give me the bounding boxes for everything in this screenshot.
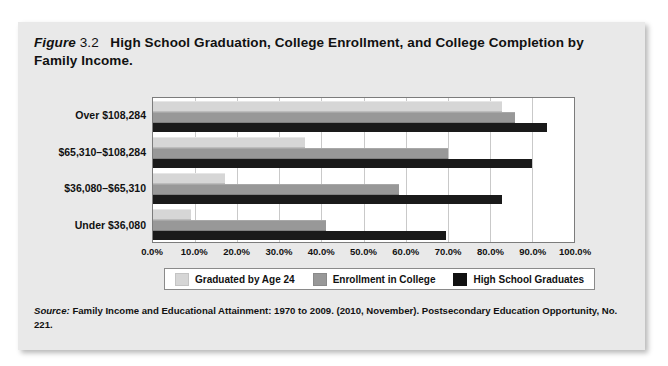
bar-group <box>153 98 574 134</box>
legend-swatch <box>175 273 189 286</box>
bar <box>153 209 191 220</box>
x-axis-tick-label: 40.0% <box>308 246 335 257</box>
plot-area <box>152 97 575 243</box>
bar <box>153 148 448 159</box>
legend-label: Graduated by Age 24 <box>195 274 295 285</box>
x-axis-tick-label: 100.0% <box>559 246 591 257</box>
x-axis-tick-label: 60.0% <box>392 246 419 257</box>
legend-label: High School Graduates <box>473 274 584 285</box>
legend-swatch <box>313 273 327 286</box>
chart-region: Over $108,284$65,310–$108,284$36,080–$65… <box>18 74 645 294</box>
x-axis-tick-label: 20.0% <box>223 246 250 257</box>
x-axis-tick-label: 50.0% <box>350 246 377 257</box>
figure-panel: Figure 3.2 High School Graduation, Colle… <box>18 22 645 350</box>
x-axis-tick-label: 0.0% <box>141 246 163 257</box>
bar-group <box>153 206 574 242</box>
y-axis-label: Over $108,284 <box>60 97 152 134</box>
legend-label: Enrollment in College <box>333 274 436 285</box>
bar-group <box>153 134 574 170</box>
figure-caption-text: High School Graduation, College Enrollme… <box>34 35 584 68</box>
x-axis-tick-label: 30.0% <box>265 246 292 257</box>
x-axis-tick-label: 70.0% <box>435 246 462 257</box>
source-note: Source: Family Income and Educational At… <box>34 304 629 332</box>
figure-label: Figure <box>34 35 76 50</box>
chart-legend: Graduated by Age 24Enrollment in College… <box>164 268 595 290</box>
figure-caption: Figure 3.2 High School Graduation, Colle… <box>34 34 626 70</box>
bar <box>153 101 502 112</box>
bar <box>153 231 446 240</box>
bar-groups <box>153 98 574 242</box>
legend-item[interactable]: Enrollment in College <box>313 273 436 286</box>
source-text: Family Income and Educational Attainment… <box>34 305 617 330</box>
legend-item[interactable]: Graduated by Age 24 <box>175 273 295 286</box>
bar <box>153 137 305 148</box>
x-axis-tick-label: 80.0% <box>477 246 504 257</box>
source-label: Source: <box>34 305 70 316</box>
bar <box>153 159 532 168</box>
legend-item[interactable]: High School Graduates <box>453 273 584 286</box>
y-axis-label: $65,310–$108,284 <box>60 134 152 171</box>
y-axis-label: $36,080–$65,310 <box>60 170 152 207</box>
legend-swatch <box>453 273 467 286</box>
bar <box>153 112 515 123</box>
y-axis-category-labels: Over $108,284$65,310–$108,284$36,080–$65… <box>60 97 152 243</box>
bar <box>153 173 225 184</box>
x-axis-tick-label: 90.0% <box>519 246 546 257</box>
bar-group <box>153 170 574 206</box>
bar <box>153 123 547 132</box>
bar <box>153 195 502 204</box>
bar <box>153 220 326 231</box>
x-axis-tick-labels: 0.0%10.0%20.0%30.0%40.0%50.0%60.0%70.0%8… <box>152 246 575 262</box>
figure-number: 3.2 <box>80 35 99 50</box>
y-axis-label: Under $36,080 <box>60 207 152 244</box>
bar <box>153 184 399 195</box>
x-axis-tick-label: 10.0% <box>181 246 208 257</box>
